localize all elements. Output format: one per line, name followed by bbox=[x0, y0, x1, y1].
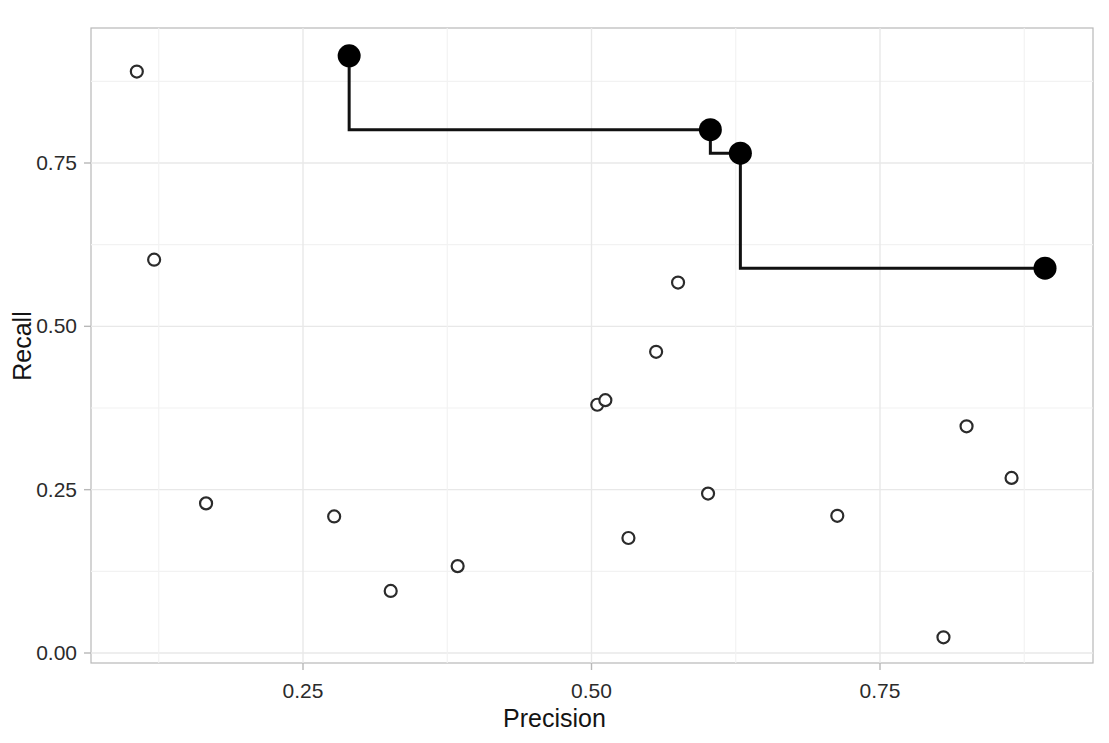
data-point-open-14 bbox=[961, 420, 973, 432]
x-tick-label-2: 0.75 bbox=[860, 679, 901, 703]
data-point-open-2 bbox=[200, 497, 212, 509]
data-point-pareto-0 bbox=[338, 44, 361, 67]
data-point-pareto-3 bbox=[1034, 257, 1057, 280]
data-point-open-1 bbox=[148, 254, 160, 266]
x-tick-label-1: 0.50 bbox=[571, 679, 612, 703]
data-point-open-11 bbox=[702, 488, 714, 500]
data-point-open-0 bbox=[131, 66, 143, 78]
y-tick-label-0: 0.00 bbox=[19, 641, 77, 665]
data-point-open-9 bbox=[650, 346, 662, 358]
data-point-pareto-1 bbox=[699, 118, 722, 141]
data-point-open-8 bbox=[622, 532, 634, 544]
y-tick-label-3: 0.75 bbox=[19, 151, 77, 175]
data-point-open-3 bbox=[328, 510, 340, 522]
data-point-open-4 bbox=[385, 585, 397, 597]
data-point-pareto-2 bbox=[729, 142, 752, 165]
data-point-open-15 bbox=[1006, 472, 1018, 484]
y-tick-label-1: 0.25 bbox=[19, 478, 77, 502]
x-tick-label-0: 0.25 bbox=[283, 679, 324, 703]
data-point-open-12 bbox=[831, 510, 843, 522]
plot-area bbox=[0, 0, 1109, 743]
y-axis-title: Recall bbox=[8, 296, 37, 396]
data-point-open-10 bbox=[672, 277, 684, 289]
data-point-open-7 bbox=[599, 394, 611, 406]
data-point-open-13 bbox=[937, 631, 949, 643]
x-axis-title: Precision bbox=[0, 704, 1109, 733]
data-point-open-5 bbox=[452, 560, 464, 572]
precision-recall-scatter-figure: 0.000.250.500.750.250.500.75 Precision R… bbox=[0, 0, 1109, 743]
